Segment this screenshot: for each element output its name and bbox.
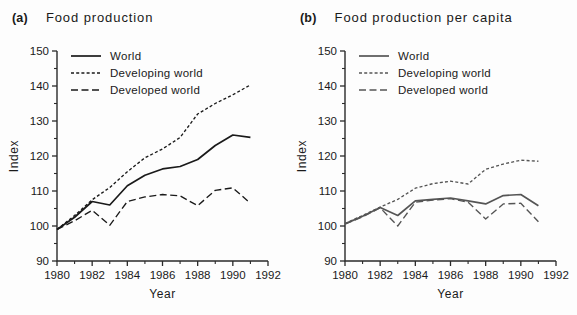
legend-label-developed-world: Developed world [398, 84, 488, 96]
legend-label-world: World [398, 50, 429, 62]
legend-label-developing-world: Developing world [110, 67, 203, 79]
x-tick-label: 1992 [255, 269, 281, 281]
y-tick-label: 140 [30, 80, 49, 92]
y-tick-label: 120 [30, 150, 49, 162]
x-axis-title: Year [437, 287, 464, 301]
panel-b-plot: 9010011012013014015019801982198419861988… [288, 0, 576, 315]
x-tick-label: 1984 [403, 269, 429, 281]
legend-label-world: World [110, 50, 141, 62]
y-tick-label: 140 [318, 80, 337, 92]
x-tick-label: 1990 [508, 269, 534, 281]
panel-b: (b) Food production per capita 901001101… [288, 0, 576, 315]
x-tick-label: 1992 [543, 269, 569, 281]
series-line-developing-world [345, 160, 538, 223]
y-tick-label: 100 [30, 220, 49, 232]
y-tick-label: 120 [318, 150, 337, 162]
x-tick-label: 1988 [473, 269, 499, 281]
y-tick-label: 110 [319, 185, 337, 197]
series-line-developed-world [345, 199, 538, 226]
x-axis-title: Year [149, 287, 176, 301]
y-tick-label: 90 [324, 255, 337, 267]
y-tick-label: 150 [318, 45, 337, 57]
x-tick-label: 1984 [115, 269, 141, 281]
x-tick-label: 1982 [79, 269, 105, 281]
legend-label-developed-world: Developed world [110, 84, 200, 96]
axis-spine [57, 51, 268, 261]
series-line-developed-world [57, 188, 250, 230]
y-tick-label: 90 [36, 255, 49, 267]
x-tick-label: 1986 [438, 269, 464, 281]
y-tick-label: 100 [318, 220, 337, 232]
legend-label-developing-world: Developing world [398, 67, 491, 79]
x-tick-label: 1990 [220, 269, 246, 281]
y-tick-label: 130 [30, 115, 49, 127]
panel-a-plot: 9010011012013014015019801982198419861988… [0, 0, 288, 315]
y-axis-title: Index [295, 140, 309, 172]
axis-spine [345, 51, 556, 261]
panel-a: (a) Food production 90100110120130140150… [0, 0, 288, 315]
x-tick-label: 1980 [332, 269, 358, 281]
x-tick-label: 1986 [150, 269, 176, 281]
x-tick-label: 1988 [185, 269, 211, 281]
y-tick-label: 130 [318, 115, 337, 127]
series-line-world [57, 135, 250, 230]
y-axis-title: Index [7, 140, 21, 172]
x-tick-label: 1980 [44, 269, 70, 281]
y-tick-label: 150 [30, 45, 49, 57]
x-tick-label: 1982 [367, 269, 393, 281]
y-tick-label: 110 [31, 185, 49, 197]
figure-root: (a) Food production 90100110120130140150… [0, 0, 577, 315]
